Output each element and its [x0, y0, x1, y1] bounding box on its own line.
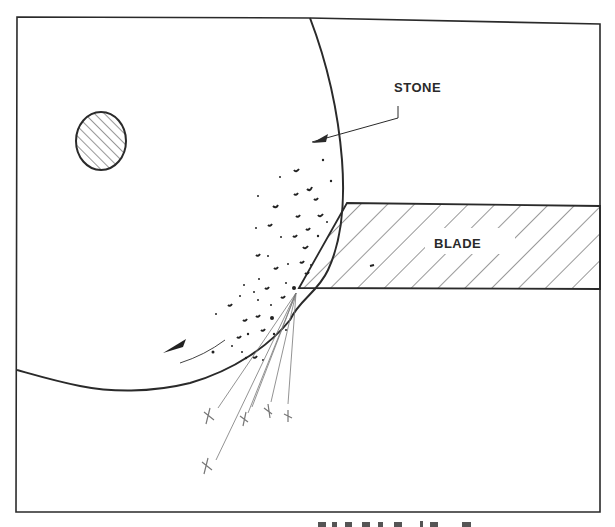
- blade: BLADE: [299, 203, 600, 289]
- axle-hub: [76, 112, 126, 170]
- sharpening-diagram: BLADE STONE: [0, 0, 615, 527]
- spark-marks: [202, 404, 292, 474]
- stone-wheel: [17, 18, 343, 391]
- blade-label: BLADE: [434, 236, 481, 251]
- spark-trails: [216, 293, 296, 460]
- stone-label: STONE: [394, 80, 441, 95]
- rotation-arrow: [163, 339, 225, 363]
- caption-cropped: [318, 521, 471, 527]
